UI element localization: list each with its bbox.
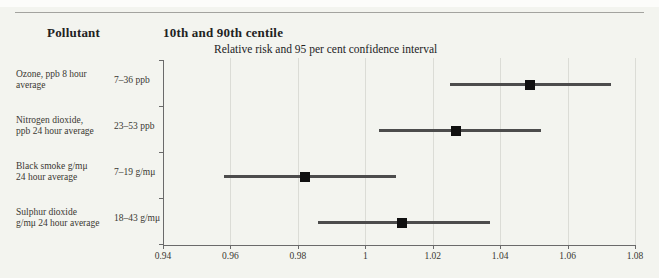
pollutant-label-line: 24 hour average	[16, 172, 114, 183]
gridline	[230, 58, 231, 245]
point-estimate-marker	[300, 172, 310, 182]
pollutant-label: Ozone, ppb 8 hour average	[16, 69, 114, 91]
forest-plot-figure: Pollutant 10th and 90th centile Relative…	[0, 0, 659, 278]
y-axis-tick	[159, 152, 163, 153]
plot-area: 0.940.960.9811.021.041.061.08Ozone, ppb …	[0, 0, 659, 278]
pollutant-label-line: Nitrogen dioxide,	[16, 115, 114, 126]
pollutant-label-line: Ozone, ppb 8 hour average	[16, 69, 114, 91]
centile-range-label: 7–19 g/mμ	[114, 167, 169, 178]
x-axis-tick-label: 1.08	[617, 251, 653, 261]
x-axis-tick-label: 1.06	[550, 251, 586, 261]
pollutant-label-line: Black smoke g/mμ	[16, 161, 114, 172]
pollutant-label-line: ppb 24 hour average	[16, 126, 114, 137]
pollutant-label: Sulphur dioxideg/mμ 24 hour average	[16, 207, 114, 229]
point-estimate-marker	[525, 80, 535, 90]
y-axis-tick	[159, 60, 163, 61]
y-axis-tick	[159, 244, 163, 245]
gridline	[500, 58, 501, 245]
centile-range-label: 7–36 ppb	[114, 75, 169, 86]
x-axis-tick-label: 0.98	[280, 251, 316, 261]
pollutant-label: Black smoke g/mμ24 hour average	[16, 161, 114, 183]
y-axis-tick	[159, 198, 163, 199]
gridline	[365, 58, 366, 245]
pollutant-label-line: Sulphur dioxide	[16, 207, 114, 218]
pollutant-label: Nitrogen dioxide,ppb 24 hour average	[16, 115, 114, 137]
x-axis-tick-label: 1.04	[482, 251, 518, 261]
gridline	[568, 58, 569, 245]
centile-range-label: 23–53 ppb	[114, 121, 169, 132]
y-axis-tick	[159, 106, 163, 107]
point-estimate-marker	[451, 126, 461, 136]
x-axis-tick-label: 1.02	[415, 251, 451, 261]
confidence-interval-line	[224, 175, 396, 178]
centile-range-label: 18–43 g/mμ	[114, 213, 169, 224]
x-axis-line	[163, 245, 636, 246]
gridline	[298, 58, 299, 245]
x-axis-tick-label: 0.96	[212, 251, 248, 261]
point-estimate-marker	[397, 218, 407, 228]
x-axis-tick-label: 1	[347, 251, 383, 261]
gridline	[433, 58, 434, 245]
pollutant-label-line: g/mμ 24 hour average	[16, 218, 114, 229]
x-axis-tick-label: 0.94	[145, 251, 181, 261]
gridline	[635, 58, 636, 245]
